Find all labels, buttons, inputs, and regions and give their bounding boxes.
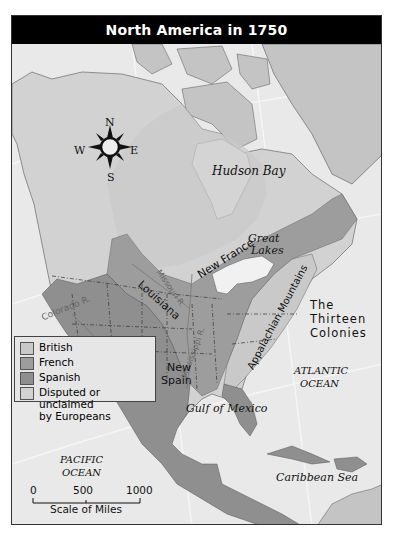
swatch-spanish (20, 372, 34, 385)
label-atlantic-2: OCEAN (300, 378, 339, 389)
scale-tick-500: 500 (73, 484, 93, 496)
compass-w: W (74, 144, 85, 157)
label-new-spain-1: New (167, 361, 191, 374)
scale-bar: 0 500 1000 Scale of Miles (28, 484, 158, 516)
compass-e: E (130, 144, 138, 157)
label-gulf-of-mexico: Gulf of Mexico (186, 402, 267, 415)
compass-n: N (105, 116, 115, 129)
label-atlantic-1: ATLANTIC (294, 365, 348, 376)
label-new-spain-2: Spain (161, 374, 192, 387)
scale-tick-0: 0 (30, 484, 37, 496)
map-title: North America in 1750 (12, 16, 381, 44)
swatch-french (20, 357, 34, 370)
compass-s: S (107, 171, 115, 184)
label-hudson-bay: Hudson Bay (212, 164, 286, 178)
map-frame: North America in 1750 (11, 15, 382, 525)
legend-label-spanish: Spanish (39, 371, 80, 383)
scale-label: Scale of Miles (50, 503, 180, 515)
map-legend: British French Spanish Disputed or uncla… (14, 336, 156, 402)
label-pacific-2: OCEAN (62, 467, 101, 478)
legend-item-disputed: Disputed or unclaimed by Europeans (20, 386, 150, 412)
label-caribbean-sea: Caribbean Sea (276, 471, 358, 484)
legend-label-disputed-2: by Europeans (39, 410, 111, 422)
label-thirteen-2: Thirteen (310, 312, 366, 326)
legend-item-british: British (20, 341, 150, 356)
legend-label-french: French (39, 356, 74, 368)
swatch-british (20, 342, 34, 355)
map-canvas (12, 44, 382, 525)
legend-label-british: British (39, 341, 73, 353)
legend-label-disputed: Disputed or unclaimed (39, 386, 100, 410)
label-thirteen-3: Colonies (310, 326, 367, 340)
swatch-disputed (20, 387, 34, 400)
label-pacific-1: PACIFIC (60, 454, 103, 465)
legend-item-french: French (20, 356, 150, 371)
label-thirteen-1: The (310, 298, 334, 312)
legend-item-spanish: Spanish (20, 371, 150, 386)
scale-tick-1000: 1000 (126, 484, 153, 496)
